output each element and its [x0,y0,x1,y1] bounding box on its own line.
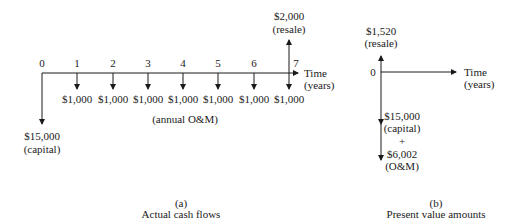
time-axis-label-b-line1: Time [464,66,487,78]
time-axis-label-b-line2: (years) [464,78,495,90]
capital-amount-a: $15,000 [24,130,60,142]
capital-label-a: (capital) [24,143,61,155]
caption-text-a: Actual cash flows [142,208,221,220]
tick-label-7: 7 [293,57,299,69]
plus-sign-b: + [399,135,405,147]
cash-flow-diagram-lines [0,0,513,220]
capital-label-b: (capital) [384,122,421,134]
capital-amount-b: $15,000 [384,110,420,122]
tick-label-4: 4 [180,57,186,69]
time-axis-label-a-line1: Time [304,67,327,79]
tick-label-2: 2 [110,57,116,69]
om-amount-6: $1,000 [239,93,269,105]
annual-om-label: (annual O&M) [152,113,218,125]
om-amount-5: $1,000 [203,93,233,105]
tick-label-1: 1 [74,57,80,69]
om-amount-1: $1,000 [62,93,92,105]
resale-label-b: (resale) [365,37,398,49]
tick-label-3: 3 [145,57,151,69]
om-label-b: (O&M) [385,160,419,172]
time-axis-label-a-line2: (years) [304,79,335,91]
resale-amount-b: $1,520 [366,25,396,37]
caption-text-b: Present value amounts [387,208,486,220]
om-amount-2: $1,000 [98,93,128,105]
resale-label-a: (resale) [273,23,306,35]
om-amount-7: $1,000 [274,93,304,105]
origin-label-b: 0 [370,66,376,78]
tick-label-5: 5 [215,57,221,69]
tick-label-6: 6 [251,57,257,69]
om-amount-3: $1,000 [133,93,163,105]
om-amount-b: $6,002 [387,148,417,160]
resale-amount-a: $2,000 [274,10,304,22]
tick-label-0: 0 [39,57,45,69]
om-amount-4: $1,000 [168,93,198,105]
